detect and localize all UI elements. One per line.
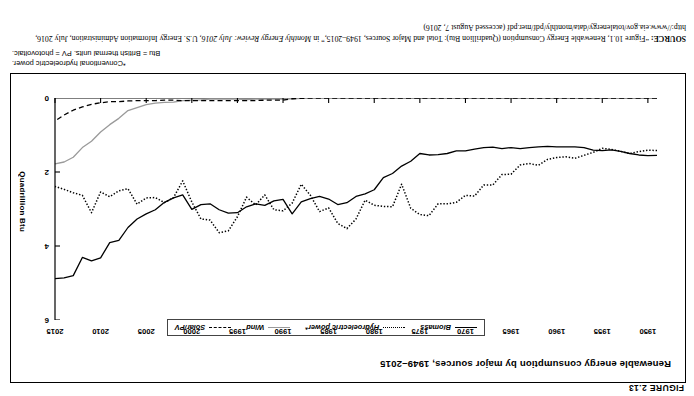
x-tick-1970: 1970 [457,327,474,336]
x-tick-2010: 2010 [92,327,109,336]
x-tick-1980: 1980 [366,327,383,336]
legend-label-wind: Wind [246,323,264,332]
y-tick-6: 6 [45,316,49,325]
source-italic-1: Monthly Energy Review: July 2016 [202,34,312,43]
figure-source: SOURCE: “Figure 10.1, Renewable Energy C… [8,21,686,44]
y-axis-label: Quadrillion Btu [18,171,27,232]
x-tick-1960: 1960 [548,327,565,336]
series-line-solar-pv [55,98,657,121]
y-tick-2: 2 [45,168,49,177]
note-hydro: *Conventional hydroelectric power. [12,58,160,68]
source-text-1: “Figure 10.1, Renewable Energy Consumpti… [311,34,651,43]
chart-plot-svg [53,98,659,320]
source-label: SOURCE: [651,34,686,43]
series-line-biomass [55,146,657,278]
x-tick-2015: 2015 [47,327,64,336]
x-tick-1965: 1965 [503,327,520,336]
figure-sheet: FIGURE 2.13 Renewable energy consumption… [0,0,694,396]
plot-area [53,98,659,320]
x-tick-1990: 1990 [275,327,292,336]
note-units: Btu = British thermal units. PV = photov… [12,48,160,58]
x-tick-2005: 2005 [138,327,155,336]
rotated-page: FIGURE 2.13 Renewable energy consumption… [0,0,694,396]
y-tick-0: 0 [45,94,49,103]
x-tick-1975: 1975 [411,327,428,336]
series-line-hydroelectric-power [55,148,657,232]
y-tick-4: 4 [45,242,49,251]
chart-title: Renewable energy consumption by major so… [380,359,671,370]
figure-number: FIGURE 2.13 [629,383,684,393]
x-tick-1955: 1955 [594,327,611,336]
legend-key-hydroelectric-icon [383,327,405,328]
x-tick-1995: 1995 [229,327,246,336]
series-line-wind [55,98,657,164]
figure-notes: *Conventional hydroelectric power. Btu =… [12,48,160,68]
x-tick-2000: 2000 [183,327,200,336]
x-tick-1950: 1950 [639,327,656,336]
chart-panel: Renewable energy consumption by major so… [10,73,686,383]
x-tick-1985: 1985 [320,327,337,336]
